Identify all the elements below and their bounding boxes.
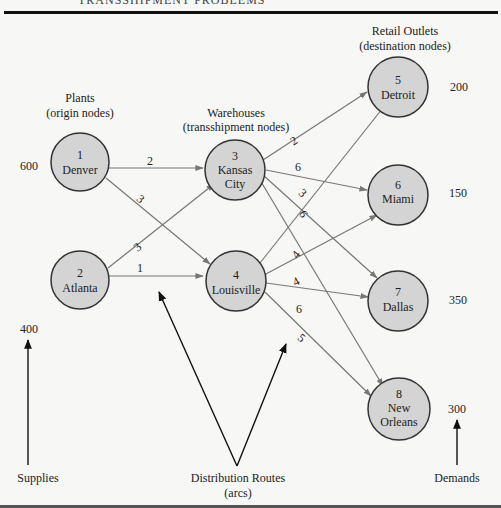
- arc-2-3: [108, 184, 214, 268]
- cost-1-4: 3: [134, 192, 148, 207]
- routes-arrow-left: [159, 292, 237, 466]
- retail-subtitle: (destination nodes): [359, 39, 451, 53]
- node-name-2: City: [225, 177, 246, 191]
- node-new-orleans: 8 New Orleans: [368, 378, 430, 440]
- node-name: New: [388, 401, 411, 415]
- arc-1-4: [106, 178, 210, 264]
- network-diagram: Plants (origin nodes) Warehouses (transs…: [0, 0, 501, 508]
- node-name-2: Orleans: [380, 415, 418, 429]
- node-id: 7: [395, 285, 401, 299]
- node-name: Kansas: [218, 163, 253, 177]
- plants-subtitle: (origin nodes): [46, 106, 114, 120]
- supply-denver: 600: [20, 159, 38, 173]
- cost-3-6: 6: [295, 160, 301, 174]
- node-atlanta: 2 Atlanta: [51, 251, 109, 309]
- cost-2-3: 3: [131, 240, 145, 255]
- arc-4-6: [264, 215, 377, 275]
- node-name: Louisville: [212, 283, 261, 297]
- node-id: 1: [77, 148, 83, 162]
- cost-4-7: 6: [296, 302, 302, 316]
- cost-3-8: 6: [296, 208, 311, 221]
- arc-3-8: [260, 180, 383, 386]
- arc-4-7: [266, 283, 368, 297]
- supply-atlanta: 400: [20, 322, 38, 336]
- node-detroit: 5 Detroit: [368, 57, 428, 117]
- node-louisville: 4 Louisville: [206, 251, 266, 311]
- retail-title: Retail Outlets: [372, 24, 439, 38]
- cost-4-5: 4: [288, 248, 303, 261]
- node-miami: 6 Miami: [368, 165, 428, 225]
- demand-detroit: 200: [450, 80, 468, 94]
- plants-title: Plants: [65, 91, 95, 105]
- node-name: Denver: [62, 163, 97, 177]
- cost-3-5: 2: [287, 133, 300, 148]
- routes-label: Distribution Routes: [191, 471, 286, 485]
- demand-new-orleans: 300: [448, 402, 466, 416]
- warehouses-subtitle: (transshipment nodes): [183, 120, 289, 134]
- warehouses-title: Warehouses: [207, 106, 265, 120]
- node-id: 5: [395, 73, 401, 87]
- node-id: 4: [233, 268, 239, 282]
- demands-label: Demands: [434, 471, 480, 485]
- demand-dallas: 350: [449, 293, 467, 307]
- node-name: Dallas: [383, 300, 414, 314]
- node-denver: 1 Denver: [51, 133, 109, 191]
- node-name: Miami: [382, 192, 415, 206]
- demand-miami: 150: [449, 186, 467, 200]
- arcs: [106, 92, 386, 396]
- routes-sublabel: (arcs): [224, 486, 251, 500]
- node-dallas: 7 Dallas: [368, 271, 428, 331]
- routes-arrow-right: [237, 344, 286, 466]
- arc-3-7: [263, 175, 377, 278]
- node-id: 3: [232, 149, 238, 163]
- node-kansas-city: 3 Kansas City: [205, 140, 265, 200]
- node-name: Detroit: [381, 88, 416, 102]
- cost-1-3: 2: [147, 154, 153, 168]
- cost-3-7: 3: [296, 186, 310, 200]
- supplies-label: Supplies: [17, 471, 59, 485]
- cost-2-4: 1: [137, 261, 143, 275]
- node-name: Atlanta: [62, 281, 98, 295]
- arc-4-8: [265, 292, 371, 396]
- arc-3-6: [266, 170, 367, 190]
- node-id: 6: [395, 178, 401, 192]
- node-id: 8: [396, 387, 402, 401]
- node-id: 2: [77, 266, 83, 280]
- cost-4-8: 5: [295, 331, 309, 346]
